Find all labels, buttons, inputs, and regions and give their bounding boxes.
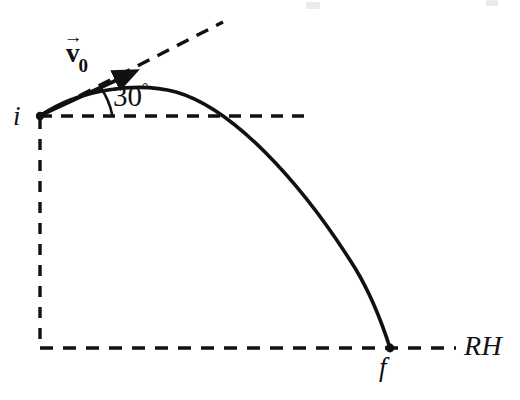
launch-point-marker: [36, 112, 44, 120]
trajectory-curve: [40, 87, 390, 348]
initial-point-label: i: [13, 103, 21, 130]
velocity-symbol-wrapper: → v: [66, 40, 80, 67]
projectile-diagram: i f RH 30° → v 0: [0, 0, 520, 400]
reference-line-label: RH: [464, 332, 502, 360]
final-point-label: f: [379, 354, 387, 381]
vector-arrow-icon: →: [64, 27, 83, 46]
velocity-vector-label: → v 0: [66, 40, 89, 71]
degree-symbol: °: [142, 80, 148, 97]
velocity-subscript: 0: [79, 55, 89, 76]
angle-value: 30: [113, 80, 142, 112]
launch-angle-label: 30°: [113, 82, 148, 111]
